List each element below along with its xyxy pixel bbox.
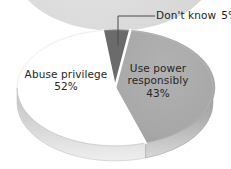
slice-callout-dont-know-text: Don't know [156, 9, 216, 21]
slice-label-use-power-line2: responsibly [120, 74, 196, 86]
slice-callout-dont-know-value: 5% [221, 9, 231, 21]
slice-label-use-power-responsibly: Use power responsibly 43% [120, 62, 196, 99]
slice-callout-dont-know: Don't know5% [156, 9, 231, 21]
slice-label-abuse-privilege-value: 52% [10, 80, 122, 92]
slice-label-abuse-privilege-text: Abuse privilege [10, 68, 122, 80]
slice-label-use-power-line1: Use power [120, 62, 196, 74]
slice-label-use-power-value: 43% [120, 87, 196, 99]
pie-chart-figure: responsibly [0, 0, 231, 169]
slice-label-abuse-privilege: Abuse privilege 52% [10, 68, 122, 93]
